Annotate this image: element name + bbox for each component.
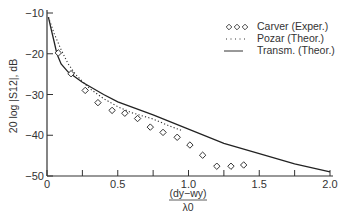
legend-label: Carver (Exper.) (257, 20, 328, 32)
x-axis-label-denominator: λ0 (182, 201, 193, 213)
y-tick-label: −30 (25, 89, 44, 101)
x-tick-label: 0 (44, 178, 50, 190)
carver-exper-point (109, 107, 115, 113)
carver-exper-point (228, 163, 234, 169)
legend-carver-symbol (234, 24, 240, 30)
carver-exper-point (134, 115, 140, 121)
legend: Carver (Exper.)Pozar (Theor.)Transm. (Th… (224, 20, 335, 56)
carver-exper-point (199, 152, 205, 158)
legend-carver-symbol (226, 24, 232, 30)
y-axis-label: 20 log |S12|, dB (7, 59, 19, 133)
y-tick-label: −10 (25, 7, 44, 19)
legend-label: Pozar (Theor.) (257, 32, 324, 44)
carver-exper-point (160, 129, 166, 135)
carver-exper-point (82, 87, 88, 93)
y-tick-label: −40 (25, 129, 44, 141)
legend-label: Transm. (Theor.) (257, 44, 335, 56)
y-tick-label: −50 (25, 170, 44, 182)
carver-exper-point (240, 162, 246, 168)
x-tick-label: 2.0 (322, 178, 337, 190)
carver-exper-point (147, 124, 153, 130)
carver-exper-point (122, 110, 128, 116)
chart: 00.51.01.52.0−10−20−30−40−50 20 log |S12… (0, 0, 344, 216)
carver-exper-point (174, 134, 180, 140)
carver-exper-point (187, 142, 193, 148)
x-axis-label-numerator: (dy−wy) (169, 187, 206, 199)
y-tick-label: −20 (25, 48, 44, 60)
legend-carver-symbol (242, 24, 248, 30)
x-tick-label: 1.5 (252, 178, 267, 190)
carver-exper-point (214, 163, 220, 169)
x-tick-label: 0.5 (110, 178, 125, 190)
carver-exper-point (95, 99, 101, 105)
